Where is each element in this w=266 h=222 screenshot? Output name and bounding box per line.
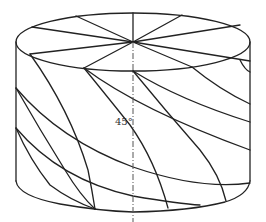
cylinder-drawing: [0, 0, 266, 222]
cylinder-diagram: 45°: [0, 0, 266, 222]
angle-label: 45°: [115, 116, 133, 127]
